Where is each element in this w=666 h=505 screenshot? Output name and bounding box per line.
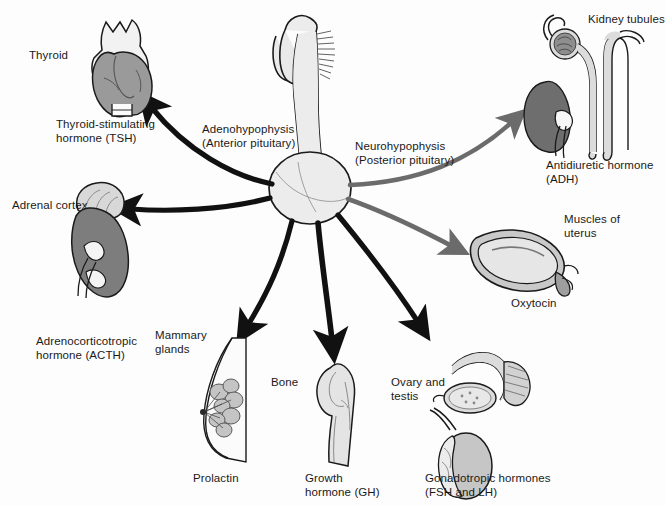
label-gonadotropic-line1: Gonadotropic hormones [425, 471, 550, 485]
label-thyroid: Thyroid [29, 48, 68, 62]
pituitary-hormone-diagram: Thyroid Thyroid-stimulating hormone (TSH… [0, 0, 666, 505]
label-bone: Bone [271, 375, 298, 389]
label-ovary-testis-line1: Ovary and [391, 375, 445, 389]
label-tsh-line1: Thyroid-stimulating [56, 117, 155, 131]
label-gonadotropic-line2: (FSH and LH) [425, 485, 497, 499]
label-prolactin: Prolactin [193, 471, 239, 485]
label-adenohypophysis-line2: (Anterior pituitary) [202, 136, 295, 150]
label-adh-line2: (ADH) [546, 172, 578, 186]
mammary-glands-illustration [200, 338, 246, 462]
label-kidney-tubules: Kidney tubules [588, 12, 665, 26]
pituitary-gland-illustration [269, 16, 351, 224]
label-acth-line1: Adrenocorticotropic [36, 334, 137, 348]
label-neurohypophysis-line1: Neurohypophysis [355, 139, 445, 153]
label-mammary-glands-line1: Mammary [155, 328, 207, 342]
label-mammary-glands-line2: glands [155, 342, 190, 356]
label-gh-line1: Growth [305, 471, 343, 485]
label-gh-line2: hormone (GH) [305, 485, 380, 499]
label-ovary-testis-line2: testis [391, 389, 418, 403]
label-uterus-line1: Muscles of [564, 212, 620, 226]
label-adrenal-cortex: Adrenal cortex [12, 198, 88, 212]
label-oxytocin: Oxytocin [511, 296, 557, 310]
label-adh-line1: Antidiuretic hormone [546, 158, 653, 172]
kidney-tubules-illustration [524, 15, 644, 160]
label-adenohypophysis-line1: Adenohypophysis [202, 122, 294, 136]
uterus-illustration [471, 230, 578, 296]
bone-illustration [317, 364, 355, 466]
thyroid-illustration [92, 20, 152, 117]
label-uterus-line2: uterus [564, 226, 597, 240]
label-tsh-line2: hormone (TSH) [56, 131, 137, 145]
diagram-illustration [0, 0, 666, 505]
label-neurohypophysis-line2: (Posterior pituitary) [355, 153, 454, 167]
label-acth-line2: hormone (ACTH) [36, 348, 125, 362]
